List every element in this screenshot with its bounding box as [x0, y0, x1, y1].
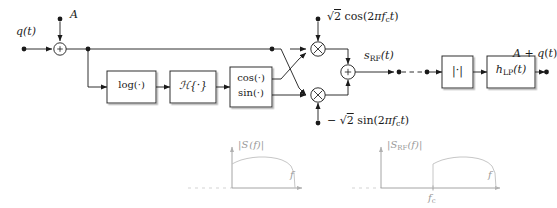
rf-title-text: |SRF(f)|: [387, 139, 422, 150]
rf-spectrum-title: |SRF(f)|: [387, 140, 422, 152]
input-terminal-dot: [22, 47, 27, 52]
block-hilbert-label: ℋ{·}: [170, 80, 216, 92]
output-terminal-dot: [544, 70, 549, 75]
baseband-spectrum-title: |S (f)|: [238, 140, 264, 150]
rf-xlabel-text: f: [488, 169, 492, 180]
spectra-group: [188, 147, 500, 191]
wire-upper-mult-to-sum: [325, 49, 348, 64]
rf-probe-dot-left: [397, 70, 402, 75]
wire-lower-mult-to-sum: [325, 80, 348, 95]
rf-x-axis-label: f: [488, 170, 492, 180]
chart-rf-spectrum: [381, 147, 500, 191]
label-bias-amplitude: A: [70, 9, 78, 20]
chart-baseband-spectrum: [232, 147, 302, 188]
label-input-signal: q(t): [16, 26, 36, 37]
label-carrier-lower: − √2 sin(2πfct): [327, 115, 409, 127]
baseband-x-axis-label: f: [290, 170, 294, 180]
wire-cross-bus-to-lower-mult: [272, 49, 306, 95]
rf-signal-text: sRF(t): [364, 49, 394, 62]
label-final-output: A + q(t): [513, 48, 557, 59]
block-lpf-label: hLP(t): [487, 64, 535, 77]
baseband-xlabel-text: f: [290, 169, 294, 180]
bias-terminal-dot: [58, 17, 63, 22]
baseband-title-text: |S (f)|: [238, 139, 264, 150]
block-cossin-label-top: cos(·): [230, 73, 272, 84]
block-abs-label: |·|: [442, 65, 473, 77]
final-output-text: A + q(t): [513, 47, 557, 60]
lpf-label-text: hLP(t): [496, 63, 526, 76]
rf-spectrum-lobe: [433, 157, 496, 188]
carrier-upper-terminal-dot: [316, 17, 321, 22]
label-rf-signal: sRF(t): [364, 50, 394, 62]
baseband-spectrum-lobe: [232, 157, 295, 188]
label-carrier-upper: √2 cos(2πfct): [327, 11, 399, 23]
carrier-lower-text: − √2 sin(2πfct): [327, 114, 409, 127]
rf-carrier-text: fc: [428, 192, 436, 203]
wire-branch-down-to-log: [88, 49, 107, 87]
carrier-lower-terminal-dot: [316, 121, 321, 126]
carrier-upper-text: √2 cos(2πfct): [327, 10, 399, 23]
block-log-label: log(·): [107, 80, 156, 91]
rf-carrier-tick-label: fc: [428, 193, 436, 205]
block-cossin-label-bottom: sin(·): [230, 88, 272, 99]
